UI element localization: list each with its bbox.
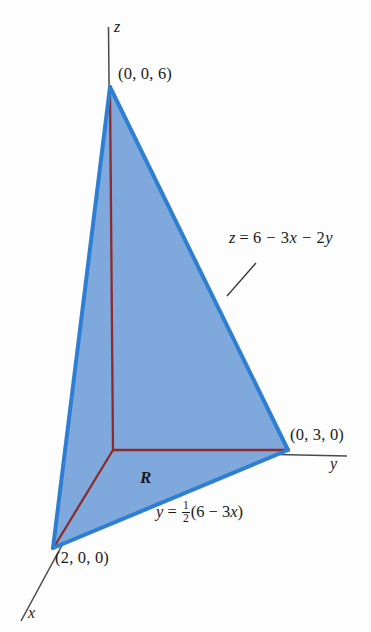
z-axis-label: z xyxy=(114,18,120,36)
plane-equation-eq: = xyxy=(235,228,253,247)
vertex-label-x-intercept: (2, 0, 0) xyxy=(55,548,109,568)
line-equation-eq: = xyxy=(163,502,181,521)
figure-canvas: (0, 0, 6) (0, 3, 0) (2, 0, 0) z y x z = … xyxy=(0,0,371,632)
plane-equation-label: z = 6 − 3x − 2y xyxy=(229,228,333,248)
one-half-fraction: 12 xyxy=(182,500,190,524)
vertex-label-apex: (0, 0, 6) xyxy=(118,64,172,84)
region-label: R xyxy=(140,468,151,488)
line-equation-label: y = 12(6 − 3x) xyxy=(156,500,243,524)
tetrahedron-plot xyxy=(0,0,371,632)
vertex-label-y-intercept: (0, 3, 0) xyxy=(290,425,344,445)
x-axis-label: x xyxy=(28,604,35,622)
plane-equation-rhs: 6 − 3x − 2y xyxy=(253,228,333,247)
line-equation-rest: (6 − 3x) xyxy=(191,502,243,521)
fraction-denominator: 2 xyxy=(182,512,190,525)
plane-equation-leader-line xyxy=(227,263,256,296)
y-axis-label: y xyxy=(330,455,337,473)
fraction-numerator: 1 xyxy=(182,500,190,512)
